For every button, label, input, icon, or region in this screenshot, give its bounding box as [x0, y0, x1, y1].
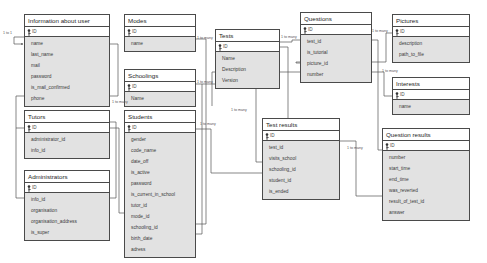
key-icon [395, 92, 399, 99]
attribute-row: name [125, 38, 195, 49]
cardinality-label: 1 to many [197, 80, 213, 84]
key-icon [385, 143, 389, 150]
entity-title: Tests [216, 30, 279, 42]
cardinality-label: 1 to many [200, 122, 216, 126]
entity-question-results[interactable]: Question results ID number start_time en… [382, 128, 470, 221]
attribute-row: tutor_id [125, 200, 195, 211]
attribute-row: password [25, 71, 109, 82]
attribute-row: name [393, 101, 469, 112]
attribute-row: last_name [25, 49, 109, 60]
attribute-row: schooling_id [125, 222, 195, 233]
cardinality-label: 1 to many [231, 108, 247, 112]
attribute-row: phone [25, 93, 109, 104]
attribute-row: info_id [25, 145, 109, 156]
pk-label: ID [223, 44, 228, 49]
attribute-row: is_super [25, 227, 109, 238]
attribute-row: path_to_file [393, 49, 469, 60]
entity-primary-key-row: ID [125, 27, 195, 37]
cardinality-label: 1 to many [112, 100, 128, 104]
entity-primary-key-row: ID [263, 131, 339, 141]
entity-primary-key-row: ID [25, 183, 109, 193]
pk-label: ID [308, 27, 313, 32]
attribute-row: end_time [383, 174, 469, 185]
attribute-row: number [301, 69, 371, 80]
attribute-row: number [383, 152, 469, 163]
entity-pictures[interactable]: Pictures ID description path_to_file [392, 14, 470, 63]
pk-label: ID [132, 29, 137, 34]
entity-tests[interactable]: Tests ID Name Description Version [215, 29, 280, 89]
entity-attributes: Name [125, 92, 195, 106]
attribute-row: result_of_test_id [383, 196, 469, 207]
attribute-row: adress [125, 244, 195, 255]
pk-label: ID [400, 29, 405, 34]
entity-title: Students [125, 111, 195, 123]
attribute-row: test_id [263, 142, 339, 153]
entity-attributes: administrator_id info_id [25, 133, 109, 158]
attribute-row: visits_school [263, 153, 339, 164]
key-icon [127, 125, 131, 132]
entity-primary-key-row: ID [125, 82, 195, 92]
pk-label: ID [400, 92, 405, 97]
attribute-row: birth_date [125, 233, 195, 244]
attribute-row: mode_id [125, 211, 195, 222]
attribute-row: mail [25, 60, 109, 71]
attribute-row: is_tutorial [301, 47, 371, 58]
entity-title: Question results [383, 129, 469, 141]
entity-attributes: gender code_name date_off is_active pass… [125, 133, 195, 257]
entity-questions[interactable]: Questions ID test_id is_tutorial picture… [300, 12, 372, 83]
attribute-row: test_id [301, 36, 371, 47]
entity-title: Pictures [393, 15, 469, 27]
cardinality-label: 1 to many [281, 35, 297, 39]
key-icon [127, 29, 131, 36]
entity-attributes: test_id visits_school schooling_id stude… [263, 141, 339, 199]
entity-administrators[interactable]: Administrators ID info_id organisation o… [24, 170, 110, 241]
entity-students[interactable]: Students ID gender code_name date_off is… [124, 110, 196, 258]
entity-title: Schoolings [125, 70, 195, 82]
entity-attributes: name last_name mail password is_mail_con… [25, 37, 109, 106]
attribute-row: gender [125, 134, 195, 145]
attribute-row: is_current_in_school [125, 189, 195, 200]
key-icon [218, 44, 222, 51]
attribute-row: Version [216, 75, 279, 86]
attribute-row: is_active [125, 167, 195, 178]
entity-attributes: Name Description Version [216, 52, 279, 88]
entity-attributes: description path_to_file [393, 37, 469, 62]
entity-primary-key-row: ID [125, 123, 195, 133]
entity-title: Questions [301, 13, 371, 25]
attribute-row: administrator_id [25, 134, 109, 145]
entity-interests[interactable]: Interests ID name [392, 77, 470, 115]
entity-title: Information about user [25, 15, 109, 27]
entity-title: Test results [263, 119, 339, 131]
entity-information-about-user[interactable]: Information about user ID name last_name… [24, 14, 110, 107]
pk-label: ID [132, 84, 137, 89]
entity-primary-key-row: ID [301, 25, 371, 35]
pk-label: ID [32, 125, 37, 130]
entity-title: Administrators [25, 171, 109, 183]
key-icon [265, 133, 269, 140]
attribute-row: is_mail_confirmed [25, 82, 109, 93]
entity-schoolings[interactable]: Schoolings ID Name [124, 69, 196, 107]
entity-title: Interests [393, 78, 469, 90]
attribute-row: Description [216, 64, 279, 75]
cardinality-label: 1 to many [372, 29, 388, 33]
attribute-row: Name [216, 53, 279, 64]
pk-label: ID [390, 143, 395, 148]
attribute-row: code_name [125, 145, 195, 156]
entity-tutors[interactable]: Tutors ID administrator_id info_id [24, 110, 110, 159]
attribute-row: schooling_id [263, 164, 339, 175]
key-icon [127, 84, 131, 91]
entity-attributes: name [393, 100, 469, 114]
attribute-row: date_off [125, 156, 195, 167]
key-icon [303, 27, 307, 34]
entity-title: Tutors [25, 111, 109, 123]
pk-label: ID [270, 133, 275, 138]
attribute-row: student_id [263, 175, 339, 186]
attribute-row: description [393, 38, 469, 49]
attribute-row: name [25, 38, 109, 49]
key-icon [27, 29, 31, 36]
cardinality-label: 1 to many [197, 36, 213, 40]
entity-modes[interactable]: Modes ID name [124, 14, 196, 52]
cardinality-label: 1 to many [382, 69, 398, 73]
entity-attributes: test_id is_tutorial picture_id number [301, 35, 371, 82]
entity-test-results[interactable]: Test results ID test_id visits_school sc… [262, 118, 340, 200]
